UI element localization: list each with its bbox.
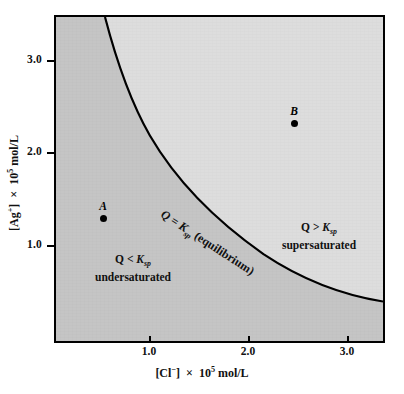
y-tick-label-3: 3.0 xyxy=(2,53,42,65)
y-tick-1 xyxy=(47,245,54,247)
x-tick-2 xyxy=(248,336,250,343)
plot-area: A B Q = Ksp (equilibrium) Q < Ksp unders… xyxy=(54,15,385,343)
undersaturated-line1: Q < Ksp xyxy=(68,252,198,270)
under-sub: sp xyxy=(144,259,151,268)
x-axis-species: [Cl xyxy=(155,366,171,380)
y-axis-times: × xyxy=(7,191,21,198)
under-k: K xyxy=(136,253,144,265)
x-tick-1 xyxy=(149,336,151,343)
x-axis-exp: 5 xyxy=(211,365,215,374)
super-op: > xyxy=(313,221,320,233)
x-axis-species-end: ] xyxy=(176,366,180,380)
y-axis-charge: + xyxy=(6,208,15,213)
point-b-label: B xyxy=(284,105,304,117)
y-axis-exp: 5 xyxy=(6,169,15,173)
supersaturated-line2: supersaturated xyxy=(254,238,384,254)
supersaturated-label: Q > Ksp supersaturated xyxy=(254,220,384,253)
x-tick-3 xyxy=(347,336,349,343)
solubility-equilibrium-figure: A B Q = Ksp (equilibrium) Q < Ksp unders… xyxy=(0,0,404,394)
point-b-marker xyxy=(291,120,298,127)
point-a-label: A xyxy=(93,200,113,212)
y-axis-unit: mol/L xyxy=(7,135,21,166)
supersaturated-line1: Q > Ksp xyxy=(254,220,384,238)
y-axis-species: [Ag xyxy=(7,212,21,231)
under-op: < xyxy=(127,253,134,265)
x-axis-title: [Cl−] × 105 mol/L xyxy=(0,365,404,381)
x-tick-label-2: 2.0 xyxy=(228,345,268,357)
y-axis-title: [Ag+] × 105 mol/L xyxy=(6,83,22,283)
y-axis-base: 10 xyxy=(7,173,21,185)
x-axis-times: × xyxy=(186,366,193,380)
x-tick-label-3: 3.0 xyxy=(327,345,367,357)
y-tick-3 xyxy=(47,60,54,62)
regions-and-curve xyxy=(56,17,383,341)
y-tick-2 xyxy=(47,152,54,154)
super-q: Q xyxy=(301,221,310,233)
x-axis-base: 10 xyxy=(199,366,211,380)
x-tick-label-1: 1.0 xyxy=(129,345,169,357)
super-sub: sp xyxy=(330,227,337,236)
point-a-marker xyxy=(100,215,107,222)
undersaturated-line2: undersaturated xyxy=(68,270,198,286)
x-axis-unit: mol/L xyxy=(218,366,249,380)
y-axis-species-end: ] xyxy=(7,204,21,208)
under-q: Q xyxy=(115,253,124,265)
super-k: K xyxy=(322,221,330,233)
undersaturated-label: Q < Ksp undersaturated xyxy=(68,252,198,285)
